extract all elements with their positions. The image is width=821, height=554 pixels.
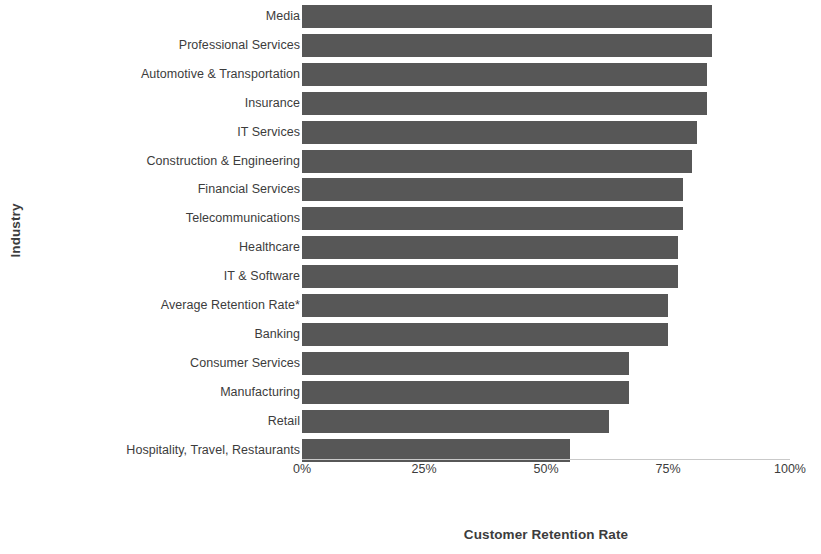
bar-category-label: IT Services — [30, 121, 300, 144]
bar-row: Automotive & Transportation — [0, 63, 821, 86]
bar-track — [302, 265, 790, 288]
bar-row: IT & Software — [0, 265, 821, 288]
x-axis-title: Customer Retention Rate — [302, 527, 790, 542]
bar-row: Average Retention Rate* — [0, 294, 821, 317]
bar-row: Professional Services — [0, 34, 821, 57]
bar-track — [302, 121, 790, 144]
bar-track — [302, 178, 790, 201]
bar-category-label: Insurance — [30, 92, 300, 115]
bar-category-label: Average Retention Rate* — [30, 294, 300, 317]
bar-row: Retail — [0, 410, 821, 433]
bar-category-label: Hospitality, Travel, Restaurants — [30, 439, 300, 462]
bar-row: Media — [0, 5, 821, 28]
bar-row: Manufacturing — [0, 381, 821, 404]
x-axis-tick-label: 50% — [506, 462, 586, 476]
bar-row: Banking — [0, 323, 821, 346]
bar-row: Telecommunications — [0, 207, 821, 230]
bar-fill — [302, 5, 712, 28]
bar-row: Financial Services — [0, 178, 821, 201]
bar-track — [302, 236, 790, 259]
bar-fill — [302, 410, 609, 433]
bar-fill — [302, 63, 707, 86]
bar-fill — [302, 352, 629, 375]
bar-category-label: Consumer Services — [30, 352, 300, 375]
plot-area: MediaProfessional ServicesAutomotive & T… — [0, 0, 821, 460]
bar-row: Healthcare — [0, 236, 821, 259]
bar-row: Consumer Services — [0, 352, 821, 375]
x-axis-line — [302, 459, 790, 460]
bar-row: Insurance — [0, 92, 821, 115]
bar-track — [302, 92, 790, 115]
bar-track — [302, 410, 790, 433]
bar-fill — [302, 207, 683, 230]
bar-track — [302, 381, 790, 404]
x-axis-tick-labels: 0%25%50%75%100% — [0, 462, 821, 484]
bar-category-label: IT & Software — [30, 265, 300, 288]
bar-category-label: Financial Services — [30, 178, 300, 201]
bar-row: Construction & Engineering — [0, 150, 821, 173]
bar-category-label: Media — [30, 5, 300, 28]
bar-fill — [302, 150, 692, 173]
bar-category-label: Construction & Engineering — [30, 150, 300, 173]
x-axis-tick-label: 100% — [750, 462, 821, 476]
bar-fill — [302, 323, 668, 346]
bar-fill — [302, 178, 683, 201]
bar-category-label: Professional Services — [30, 34, 300, 57]
bar-fill — [302, 236, 678, 259]
bar-category-label: Telecommunications — [30, 207, 300, 230]
bar-row: IT Services — [0, 121, 821, 144]
bar-track — [302, 352, 790, 375]
bar-category-label: Automotive & Transportation — [30, 63, 300, 86]
bar-track — [302, 34, 790, 57]
bar-track — [302, 63, 790, 86]
bar-category-label: Banking — [30, 323, 300, 346]
bar-fill — [302, 294, 668, 317]
bar-fill — [302, 121, 697, 144]
bar-chart: Industry MediaProfessional ServicesAutom… — [0, 0, 821, 554]
bar-track — [302, 150, 790, 173]
bar-track — [302, 207, 790, 230]
bar-category-label: Manufacturing — [30, 381, 300, 404]
bar-fill — [302, 92, 707, 115]
bar-track — [302, 294, 790, 317]
bar-track — [302, 5, 790, 28]
bar-fill — [302, 381, 629, 404]
bar-category-label: Retail — [30, 410, 300, 433]
bar-fill — [302, 34, 712, 57]
bar-fill — [302, 265, 678, 288]
x-axis-tick-label: 0% — [262, 462, 342, 476]
bar-track — [302, 323, 790, 346]
bar-category-label: Healthcare — [30, 236, 300, 259]
x-axis-tick-label: 25% — [384, 462, 464, 476]
x-axis-tick-label: 75% — [628, 462, 708, 476]
